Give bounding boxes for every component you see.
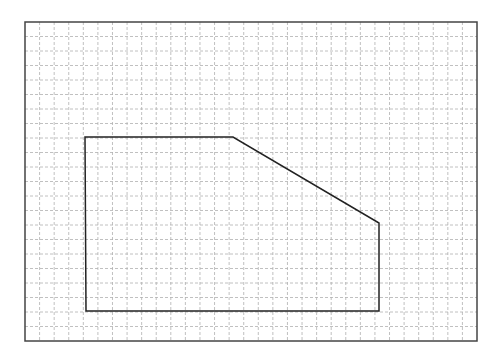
polygon-shape (85, 137, 379, 311)
grid-diagram (0, 0, 502, 361)
grid-lines (25, 22, 477, 341)
